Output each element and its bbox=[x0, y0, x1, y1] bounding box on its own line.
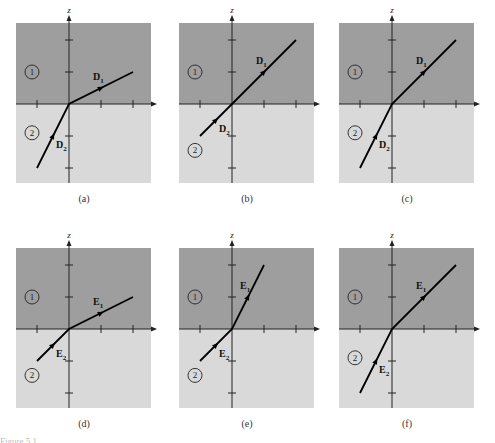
region-2-area bbox=[339, 104, 474, 183]
region-1-area bbox=[339, 23, 474, 104]
z-axis-label: z bbox=[389, 5, 394, 15]
svg-text:2: 2 bbox=[353, 128, 358, 138]
field-diagram: zy12D1D2 bbox=[163, 0, 323, 200]
z-axis-label: z bbox=[229, 230, 234, 240]
svg-text:1: 1 bbox=[30, 67, 35, 77]
z-axis-arrow-icon bbox=[390, 15, 395, 21]
svg-text:1: 1 bbox=[353, 292, 358, 302]
figure-caption-fragment: Figure 5.1 bbox=[0, 436, 495, 443]
z-axis-arrow-icon bbox=[67, 15, 72, 21]
region-2-area bbox=[179, 104, 314, 183]
field-diagram: zy12D1D2 bbox=[0, 0, 160, 200]
svg-text:2: 2 bbox=[193, 370, 198, 380]
panel-caption: (c) bbox=[327, 193, 487, 204]
panel-b: zy12D1D2(b) bbox=[163, 0, 323, 200]
z-axis-arrow-icon bbox=[230, 15, 235, 21]
field-diagram: zy12E1E2 bbox=[323, 225, 483, 425]
svg-text:2: 2 bbox=[353, 353, 358, 363]
panel-caption: (d) bbox=[4, 418, 164, 429]
svg-text:1: 1 bbox=[193, 67, 198, 77]
region-1-area bbox=[16, 23, 151, 104]
panel-d: zy12E1E2(d) bbox=[0, 225, 160, 425]
z-axis-arrow-icon bbox=[390, 240, 395, 246]
region-2-area bbox=[16, 329, 151, 408]
svg-text:1: 1 bbox=[353, 67, 358, 77]
panel-f: zy12E1E2(f) bbox=[323, 225, 483, 425]
z-axis-arrow-icon bbox=[67, 240, 72, 246]
region-1-area bbox=[179, 23, 314, 104]
svg-text:2: 2 bbox=[193, 145, 198, 155]
svg-text:2: 2 bbox=[30, 370, 35, 380]
field-diagram: zy12E1E2 bbox=[163, 225, 323, 425]
y-axis-arrow-icon bbox=[151, 102, 157, 107]
region-2-area bbox=[339, 329, 474, 408]
z-axis-arrow-icon bbox=[230, 240, 235, 246]
z-axis-label: z bbox=[389, 230, 394, 240]
y-axis-arrow-icon bbox=[151, 327, 157, 332]
panel-caption: (b) bbox=[167, 193, 327, 204]
panel-caption: (e) bbox=[167, 418, 327, 429]
y-axis-arrow-icon bbox=[314, 327, 320, 332]
y-axis-arrow-icon bbox=[314, 102, 320, 107]
panel-caption: (a) bbox=[4, 193, 164, 204]
field-diagram: zy12D1D2 bbox=[323, 0, 483, 200]
z-axis-label: z bbox=[229, 5, 234, 15]
region-2-area bbox=[179, 329, 314, 408]
region-1-area bbox=[339, 248, 474, 329]
panel-caption: (f) bbox=[327, 418, 487, 429]
svg-text:1: 1 bbox=[193, 292, 198, 302]
y-axis-arrow-icon bbox=[474, 327, 480, 332]
region-1-area bbox=[16, 248, 151, 329]
region-2-area bbox=[16, 104, 151, 183]
z-axis-label: z bbox=[66, 230, 71, 240]
panel-e: zy12E1E2(e) bbox=[163, 225, 323, 425]
panel-a: zy12D1D2(a) bbox=[0, 0, 160, 200]
svg-text:1: 1 bbox=[30, 292, 35, 302]
panel-c: zy12D1D2(c) bbox=[323, 0, 483, 200]
field-diagram: zy12E1E2 bbox=[0, 225, 160, 425]
svg-text:2: 2 bbox=[30, 128, 35, 138]
y-axis-arrow-icon bbox=[474, 102, 480, 107]
z-axis-label: z bbox=[66, 5, 71, 15]
